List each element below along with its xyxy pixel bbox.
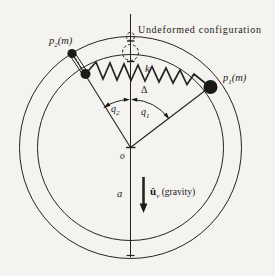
gravity-arrow-head (140, 204, 148, 214)
angle-q1-label: q1 (141, 106, 150, 120)
gravity-suffix: (gravity) (159, 186, 195, 198)
arc-arrowhead-q2-right (124, 98, 130, 102)
particle-p2-label: p2(m) (48, 35, 73, 49)
q1-sub: 1 (146, 112, 150, 120)
particle-p1 (204, 80, 218, 94)
gravity-vector-label: ûv (gravity) (150, 185, 195, 200)
q2-sub: 2 (116, 109, 120, 117)
angle-q2-label: q2 (111, 103, 120, 117)
particle-p2-outer-end (67, 49, 76, 58)
spring-stretch-label: Δ (141, 84, 148, 95)
radius-label: a (117, 188, 122, 199)
undeformed-configuration-label: Undeformed configuration (138, 24, 262, 35)
p2-suffix: (m) (58, 35, 73, 47)
radial-line-p1 (131, 87, 211, 148)
angle-arc-q1 (133, 100, 168, 118)
particle-p1-label: p1(m) (222, 72, 247, 86)
arc-arrowhead-q1-left (131, 98, 137, 102)
spring-constant-label: k (145, 63, 150, 74)
mechanics-diagram: Undeformed configuration p2(m) p1(m) k Δ… (0, 0, 275, 276)
diagram-svg: Undeformed configuration p2(m) p1(m) k Δ… (0, 0, 275, 276)
origin-label: o (120, 151, 125, 161)
p1-suffix: (m) (232, 72, 247, 84)
